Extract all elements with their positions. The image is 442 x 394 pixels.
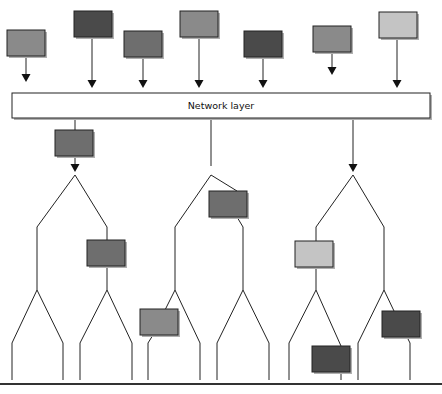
top-node-2	[74, 11, 114, 39]
tree-node-4	[295, 241, 335, 269]
network-diagram: Network layer	[0, 0, 442, 394]
arrow-head-icon	[393, 80, 402, 88]
network-layer-bar: Network layer	[12, 93, 432, 120]
arrow-head-icon	[88, 80, 97, 88]
top-node-7	[379, 12, 419, 40]
top-node-4	[180, 11, 220, 39]
arrow-head-icon	[22, 74, 31, 82]
arrow-head-icon	[349, 164, 358, 172]
arrow-head-icon	[259, 80, 268, 88]
top-node-6	[313, 26, 353, 54]
tree-node-5	[140, 309, 180, 337]
arrow-head-icon	[139, 80, 148, 88]
top-node-5	[244, 31, 284, 59]
nodes	[7, 11, 422, 374]
arrow-head-icon	[195, 80, 204, 88]
tree-node-1	[55, 130, 95, 158]
arrow-head-icon	[71, 164, 80, 172]
tree-node-6	[382, 311, 422, 339]
tree-node-3	[87, 240, 127, 268]
network-layer-label: Network layer	[188, 100, 255, 111]
tree-node-7	[312, 346, 352, 374]
top-node-1	[7, 30, 47, 58]
arrow-head-icon	[328, 67, 337, 75]
top-node-3	[124, 31, 164, 59]
tree-node-2	[209, 191, 249, 219]
